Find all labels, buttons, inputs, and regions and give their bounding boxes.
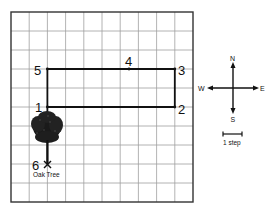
- map-diagram: 1 2 3 4 5 6 Oak Tree N S W E 1 step: [0, 0, 266, 209]
- landmark-label: Oak Tree: [33, 171, 60, 178]
- compass-rose-icon: [207, 62, 259, 114]
- scale-bar: [223, 132, 242, 137]
- compass-south-label: S: [231, 116, 236, 123]
- point-label-5: 5: [34, 63, 41, 78]
- compass-east-label: E: [260, 85, 265, 92]
- scale-label: 1 step: [223, 139, 241, 147]
- point-label-3: 3: [178, 63, 185, 78]
- compass-west-label: W: [198, 85, 205, 92]
- point-label-4: 4: [125, 54, 132, 69]
- path-route: [47, 69, 174, 164]
- oak-tree-icon: [31, 111, 63, 164]
- point-label-2: 2: [178, 102, 185, 117]
- compass-north-label: N: [230, 55, 235, 62]
- point-label-1: 1: [35, 100, 42, 115]
